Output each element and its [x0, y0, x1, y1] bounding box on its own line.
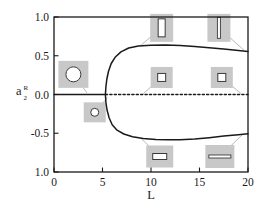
inset-thumbnails-layer [58, 14, 244, 168]
x-tick-label-1: 5 [100, 176, 106, 188]
inset-circle-large-glyph-circle [66, 67, 81, 82]
y-axis-title-subscript: 2 [24, 94, 28, 102]
y-tick-label-3: -0.5 [31, 127, 49, 139]
inset-horizontal-sliver-glyph-horizontal-sliver [209, 155, 231, 158]
inset-horizontal-bar [141, 139, 173, 168]
chart-canvas: 051015201.00.50.0-0.51.0 a R 2 L [0, 0, 267, 204]
y-axis-title-base: a [16, 84, 22, 98]
curve-layer [54, 45, 248, 140]
inset-circle-large [58, 61, 88, 93]
inset-vertical-sliver-glyph-vertical-sliver [217, 17, 220, 38]
y-axis-title: a R 2 [16, 84, 29, 102]
inset-vertical-sliver [207, 14, 244, 50]
inset-circle-small [84, 98, 108, 123]
x-tick-label-2: 10 [145, 176, 157, 188]
inset-circle-small-glyph-circle [91, 108, 99, 116]
inset-horizontal-bar-glyph-horizontal-rect [153, 154, 167, 160]
bifurcation-diagram-figure: 051015201.00.50.0-0.51.0 a R 2 L [0, 0, 267, 204]
y-axis-title-superscript: R [24, 84, 29, 92]
inset-vertical-bar [141, 14, 173, 45]
y-tick-label-4: 1.0 [35, 166, 50, 178]
inset-square-mid-left [143, 67, 172, 94]
x-tick-label-4: 20 [242, 176, 254, 188]
inset-square-mid-right-glyph-square [218, 73, 226, 81]
y-tick-label-1: 0.5 [35, 50, 50, 62]
inset-square-mid-right [211, 67, 241, 94]
x-tick-label-0: 0 [51, 176, 57, 188]
y-tick-label-2: 0.0 [35, 89, 50, 101]
inset-square-mid-left-glyph-square [158, 73, 166, 81]
inset-vertical-bar-glyph-vertical-rect [158, 19, 165, 37]
curve-lower-branch [105, 95, 248, 140]
x-tick-label-3: 15 [194, 176, 206, 188]
inset-horizontal-sliver [205, 135, 242, 168]
x-axis-title: L [147, 188, 155, 202]
y-tick-label-0: 1.0 [35, 11, 50, 23]
